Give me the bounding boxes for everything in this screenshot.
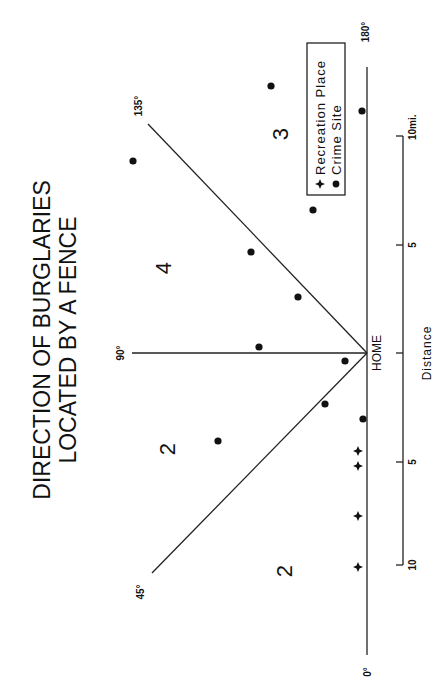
crime-site-dot bbox=[358, 107, 365, 114]
crime-site-dot bbox=[267, 82, 274, 89]
angle-label-0: 0° bbox=[362, 667, 373, 677]
crime-site-dot bbox=[309, 206, 316, 213]
angle-label-135: 135° bbox=[133, 96, 144, 117]
sector-count-0-45: 2 bbox=[272, 565, 297, 577]
scale-label-left-5: 5 bbox=[407, 459, 418, 465]
crime-site-dot bbox=[359, 415, 366, 422]
crime-site-dot bbox=[294, 293, 301, 300]
crime-site-dot bbox=[255, 343, 262, 350]
crime-site-dot bbox=[247, 248, 254, 255]
legend-recreation-label: Recreation Place bbox=[313, 60, 328, 175]
scale-label-left-10: 10 bbox=[407, 559, 418, 571]
angle-label-45: 45° bbox=[135, 584, 146, 599]
recreation-place-star-icon bbox=[353, 461, 363, 471]
crime-site-dot bbox=[129, 157, 136, 164]
sector-count-135-180: 3 bbox=[268, 128, 293, 140]
legend-crime-dot-icon bbox=[333, 181, 340, 188]
recreation-place-star-icon bbox=[353, 446, 363, 456]
legend: Recreation Place Crime Site bbox=[307, 43, 345, 195]
home-label: HOME bbox=[370, 335, 384, 371]
distance-axis-label: Distance bbox=[420, 326, 434, 381]
distance-scale: 10mi. 5 5 10 Distance bbox=[396, 114, 434, 570]
burglary-direction-diagram: DIRECTION OF BURGLARIES LOCATED BY A FEN… bbox=[0, 0, 447, 688]
sector-count-45-90: 2 bbox=[155, 443, 180, 455]
angle-label-180: 180° bbox=[360, 22, 371, 43]
scale-label-right-10: 10mi. bbox=[407, 114, 418, 140]
recreation-places bbox=[353, 446, 363, 572]
recreation-place-star-icon bbox=[353, 562, 363, 572]
title-line-1: DIRECTION OF BURGLARIES bbox=[29, 180, 55, 499]
sector-count-90-135: 4 bbox=[151, 262, 176, 274]
crime-site-dot bbox=[214, 437, 221, 444]
recreation-place-star-icon bbox=[353, 511, 363, 521]
crime-site-dot bbox=[321, 400, 328, 407]
scale-label-right-5: 5 bbox=[407, 242, 418, 248]
legend-crime-label: Crime Site bbox=[329, 104, 344, 175]
crime-site-dot bbox=[341, 357, 348, 364]
title-line-2: LOCATED BY A FENCE bbox=[55, 216, 81, 463]
angle-label-90: 90° bbox=[115, 345, 126, 360]
ray-45 bbox=[152, 353, 367, 573]
